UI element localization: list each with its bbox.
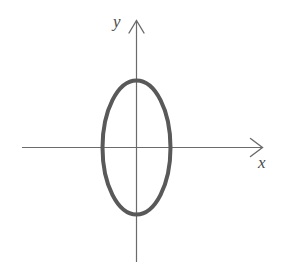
x-axis-group — [22, 139, 263, 157]
x-axis-label: x — [258, 154, 266, 171]
coordinate-plot — [0, 0, 283, 277]
y-axis-group — [129, 21, 144, 263]
y-axis-label: y — [113, 13, 121, 30]
figure-canvas: y x — [0, 0, 283, 277]
